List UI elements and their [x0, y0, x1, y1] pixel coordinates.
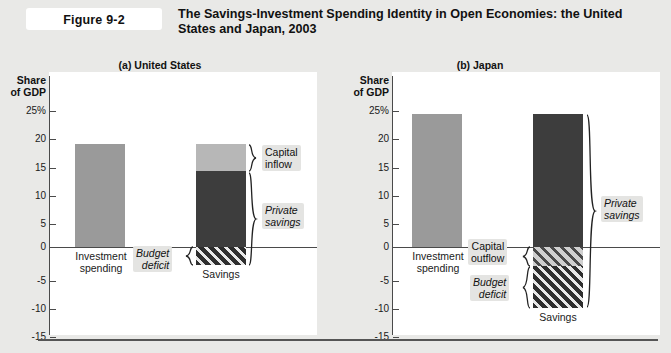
panel-a-ticklabel-10: 10 [6, 191, 46, 201]
panel-b-ticklabel-20: 20 [349, 134, 389, 144]
panel-b-investment-caption: Investment spending [400, 250, 476, 274]
panel-b-ticklabel-5: 5 [349, 219, 389, 229]
panel-b-y-axis [392, 76, 393, 335]
panel-a-capital-inflow-label: Capital inflow [262, 145, 301, 171]
panel-a-tick-m15 [50, 337, 56, 338]
label-line2: deficit [136, 259, 169, 271]
label-line2: savings [604, 209, 640, 221]
caption-line1: Investment [63, 250, 139, 262]
panel-a-investment-bar [75, 144, 125, 247]
label-line2: deficit [473, 288, 506, 300]
panel-b-capital-outflow-brace [521, 246, 531, 267]
caption-line2: spending [63, 262, 139, 274]
panel-a-investment-caption: Investment spending [63, 250, 139, 274]
panel-b-ticklabel-m5: -5 [349, 276, 389, 286]
figure-title: The Savings-Investment Spending Identity… [178, 7, 648, 37]
panel-a-tick-m5 [50, 281, 56, 282]
bottom-divider [38, 339, 658, 341]
panel-b-savings-bar [533, 114, 583, 308]
panel-a-axis-title: Share of GDP [0, 74, 46, 98]
label-line1: Budget [136, 247, 169, 259]
panel-b-tick-m5 [393, 281, 399, 282]
panel-a-budget-deficit-brace [184, 246, 194, 266]
axis-title-line1: Share [0, 74, 46, 86]
panel-b-budget-deficit-brace [521, 266, 531, 309]
panel-b-tick-20 [393, 139, 399, 140]
panel-b-title: (b) Japan [400, 59, 560, 71]
panel-a-private-savings-brace [248, 172, 258, 266]
panel-b-budget-deficit-label: Budget deficit [470, 275, 509, 301]
panel-b-ticklabel-m10: -10 [349, 304, 389, 314]
panel-a-savings-caption: Savings [185, 268, 257, 280]
label-line1: Budget [473, 276, 506, 288]
panel-a-ticklabel-0: 0 [6, 242, 46, 252]
panel-a-ticklabel-20: 20 [6, 134, 46, 144]
panel-b-capital-outflow-label: Capital outflow [468, 239, 507, 265]
axis-title-line2: of GDP [343, 86, 389, 98]
segment-investment-spending [412, 114, 462, 247]
label-line1: Private [604, 197, 640, 209]
label-line1: Capital [265, 146, 298, 158]
panel-b-private-savings-label: Private savings [601, 196, 643, 222]
panel-a-ticklabel-5: 5 [6, 219, 46, 229]
panel-a-tick-15 [50, 168, 56, 169]
segment-private-savings [196, 171, 246, 247]
caption-line2: spending [400, 262, 476, 274]
panel-a-ticklabel-m10: -10 [6, 304, 46, 314]
panel-b-tick-25 [393, 111, 399, 112]
panel-b-tick-15 [393, 168, 399, 169]
segment-budget-deficit [196, 247, 246, 265]
panel-a-budget-deficit-label: Budget deficit [133, 246, 172, 272]
panel-a-tick-m10 [50, 309, 56, 310]
segment-budget-deficit [533, 266, 583, 308]
label-line2: inflow [265, 158, 298, 170]
panel-b-tick-m15 [393, 337, 399, 338]
panel-b-ticklabel-0: 0 [349, 242, 389, 252]
label-line2: outflow [471, 252, 504, 264]
panel-b-tick-10 [393, 196, 399, 197]
panel-a-tick-10 [50, 196, 56, 197]
axis-title-line2: of GDP [0, 86, 46, 98]
panel-a-ticklabel-25: 25% [6, 106, 46, 116]
panel-b-axis-title: Share of GDP [343, 74, 389, 98]
panel-a-capital-inflow-brace [248, 144, 258, 172]
panel-a-tick-5 [50, 224, 56, 225]
panel-b-tick-m10 [393, 309, 399, 310]
segment-investment-spending [75, 144, 125, 247]
panel-b-ticklabel-10: 10 [349, 191, 389, 201]
panel-a-savings-bar [196, 144, 246, 265]
axis-title-line1: Share [343, 74, 389, 86]
segment-capital-outflow [533, 247, 583, 266]
segment-capital-inflow [196, 144, 246, 171]
segment-private-savings [533, 114, 583, 247]
panel-a-tick-25 [50, 111, 56, 112]
figure-root: Figure 9-2 The Savings-Investment Spendi… [0, 0, 671, 353]
panel-a-ticklabel-m5: -5 [6, 276, 46, 286]
label-line1: Capital [471, 240, 504, 252]
figure-number-label: Figure 9-2 [26, 10, 162, 30]
panel-a-zero-line [49, 247, 317, 248]
panel-b-ticklabel-25: 25% [349, 106, 389, 116]
panel-a-tick-20 [50, 139, 56, 140]
caption-line1: Investment [400, 250, 476, 262]
panel-b-savings-caption: Savings [522, 311, 594, 323]
panel-b-investment-bar [412, 114, 462, 247]
panel-b-private-savings-brace [586, 114, 597, 308]
panel-a-y-axis [49, 76, 50, 335]
panel-a-title: (a) United States [60, 59, 260, 71]
label-line2: savings [265, 216, 301, 228]
label-line1: Private [265, 204, 301, 216]
panel-a-ticklabel-15: 15 [6, 163, 46, 173]
panel-b-tick-5 [393, 224, 399, 225]
panel-a-private-savings-label: Private savings [262, 203, 304, 229]
panel-b-ticklabel-15: 15 [349, 163, 389, 173]
